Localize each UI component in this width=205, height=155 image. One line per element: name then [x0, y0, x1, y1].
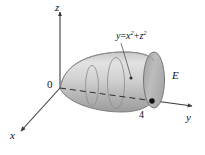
z-axis-label: z: [55, 2, 59, 13]
paraboloid-solid: [60, 52, 165, 112]
x-axis-line: [21, 88, 60, 131]
solid-region-label: E: [172, 70, 179, 81]
figure-canvas: z x y E 0 4 y=x2+z2: [0, 0, 205, 155]
equation-term2-exponent: 2: [143, 29, 146, 36]
x-axis-label: x: [10, 130, 15, 141]
y-axis-label: y: [186, 112, 191, 123]
paraboloid-body-surface: [60, 52, 154, 112]
y-intercept-marker-dot: [149, 98, 154, 103]
origin-label: 0: [47, 79, 53, 90]
y-intercept-label: 4: [139, 110, 144, 120]
surface-equation-label: y=x2+z2: [116, 30, 147, 41]
